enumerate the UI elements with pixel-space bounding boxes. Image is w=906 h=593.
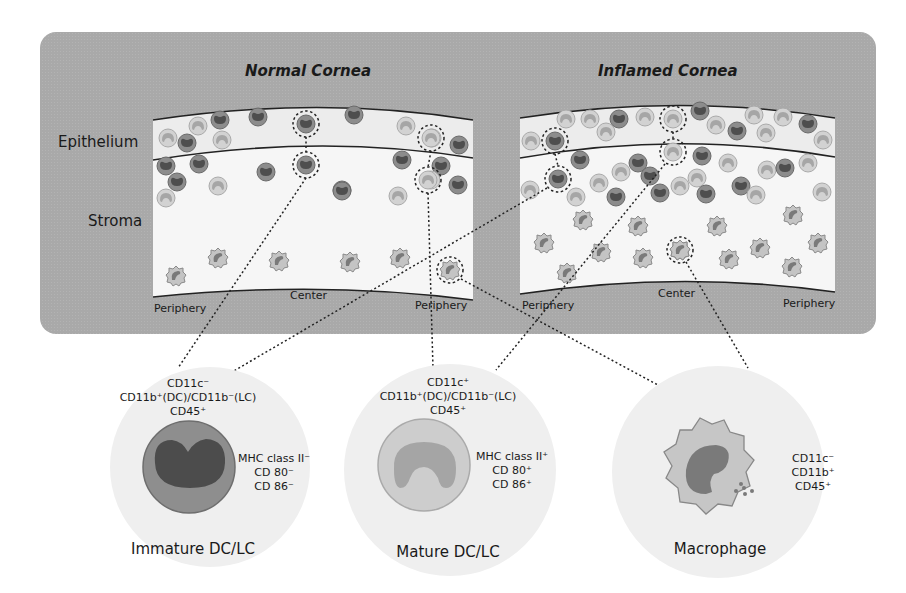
immature-markers-top: CD11c⁻ CD11b⁺(DC)/CD11b⁻(LC) CD45⁺ — [116, 377, 260, 419]
inflamed-center-label: Center — [658, 287, 695, 300]
immature-dc-illustration — [143, 421, 235, 513]
mature-marker-cd45: CD45⁺ — [376, 404, 520, 418]
immature-dc-name: Immature DC/LC — [118, 540, 268, 558]
mature-marker-cd11b: CD11b⁺(DC)/CD11b⁻(LC) — [376, 390, 520, 404]
immature-marker-mhc: MHC class II⁻ — [236, 452, 312, 466]
epithelium-label: Epithelium — [58, 133, 138, 151]
macrophage-marker-cd45: CD45⁺ — [783, 480, 843, 494]
normal-periphery-left-label: Periphery — [154, 302, 206, 315]
stroma-label: Stroma — [88, 212, 142, 230]
macrophage-markers-side: CD11c⁻ CD11b⁺ CD45⁺ — [783, 452, 843, 494]
inflamed-periphery-right-label: Periphery — [783, 297, 835, 310]
mature-marker-mhc: MHC class II⁺ — [472, 450, 552, 464]
normal-center-label: Center — [290, 289, 327, 302]
immature-marker-cd11b: CD11b⁺(DC)/CD11b⁻(LC) — [116, 391, 260, 405]
inflamed-cornea-title: Inflamed Cornea — [598, 62, 738, 80]
normal-periphery-right-label: Periphery — [415, 299, 467, 312]
normal-cornea-title: Normal Cornea — [245, 62, 371, 80]
cornea-diagram — [0, 0, 906, 593]
immature-marker-cd86: CD 86⁻ — [236, 480, 312, 494]
mature-markers-side: MHC class II⁺ CD 80⁺ CD 86⁺ — [472, 450, 552, 492]
macrophage-name: Macrophage — [660, 540, 780, 558]
mature-marker-cd86: CD 86⁺ — [472, 478, 552, 492]
macrophage-marker-cd11b: CD11b⁺ — [783, 466, 843, 480]
immature-marker-cd11c: CD11c⁻ — [116, 377, 260, 391]
mature-marker-cd80: CD 80⁺ — [472, 464, 552, 478]
mature-markers-top: CD11c⁺ CD11b⁺(DC)/CD11b⁻(LC) CD45⁺ — [376, 376, 520, 418]
mature-dc-illustration — [378, 419, 470, 511]
immature-marker-cd80: CD 80⁻ — [236, 466, 312, 480]
immature-marker-cd45: CD45⁺ — [116, 405, 260, 419]
macrophage-marker-cd11c: CD11c⁻ — [783, 452, 843, 466]
mature-dc-name: Mature DC/LC — [378, 543, 518, 561]
mature-marker-cd11c: CD11c⁺ — [376, 376, 520, 390]
immature-markers-side: MHC class II⁻ CD 80⁻ CD 86⁻ — [236, 452, 312, 494]
inflamed-periphery-left-label: Periphery — [522, 299, 574, 312]
